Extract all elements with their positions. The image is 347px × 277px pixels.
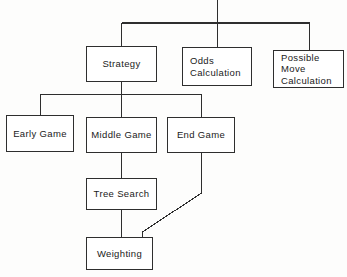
node-weighting[interactable]: Weighting [86,237,153,270]
node-odds-calculation-label: Odds Calculation [183,55,251,78]
node-middle-game-label: Middle Game [87,129,156,141]
node-tree-search-label: Tree Search [87,188,156,200]
diagram-canvas: Strategy Odds Calculation Possible Move … [0,0,347,277]
node-possible-move-calculation-label: Possible Move Calculation [274,52,343,87]
node-early-game-label: Early Game [7,128,73,140]
node-strategy-label: Strategy [87,58,156,70]
node-middle-game[interactable]: Middle Game [86,117,157,153]
node-strategy[interactable]: Strategy [86,46,157,82]
node-end-game-label: End Game [168,129,234,141]
node-weighting-label: Weighting [87,248,152,260]
node-early-game[interactable]: Early Game [6,115,74,152]
node-odds-calculation[interactable]: Odds Calculation [182,47,252,86]
node-end-game[interactable]: End Game [167,117,235,153]
node-possible-move-calculation[interactable]: Possible Move Calculation [273,50,344,88]
node-tree-search[interactable]: Tree Search [86,178,157,210]
